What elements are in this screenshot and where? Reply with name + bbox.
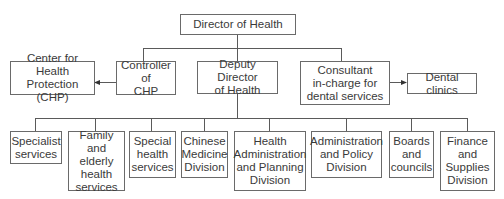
finance-line4: Division	[445, 174, 489, 187]
director-label: Director of Health	[193, 18, 282, 31]
special-health-services-box: Special health services	[129, 131, 176, 178]
boards-councils-box: Boards and councils	[389, 131, 434, 178]
boards-line3: councils	[391, 161, 433, 174]
family-line4: services	[71, 181, 122, 194]
specialist-line1: Specialist	[11, 135, 60, 148]
health-admin-planning-box: Health Administration and Planning Divis…	[234, 131, 306, 191]
controller-of-chp-box: Controller of CHP	[116, 61, 176, 95]
boards-line2: and	[391, 148, 433, 161]
hapd-line4: Division	[234, 174, 307, 187]
dental-label: Dental clinics	[410, 71, 474, 97]
admin-policy-division-box: Administration and Policy Division	[311, 131, 382, 178]
family-line2: elderly	[71, 155, 122, 168]
deputy-label-line1: Deputy Director	[200, 58, 275, 84]
hapd-line1: Health	[234, 135, 307, 148]
admin-line2: and Policy	[310, 148, 383, 161]
hapd-line3: and Planning	[234, 161, 307, 174]
finance-line1: Finance	[445, 135, 489, 148]
controller-label-line1: Controller of	[119, 59, 173, 85]
chp-center-label-line2: Protection (CHP)	[13, 78, 92, 104]
chp-center-label-line1: Center for Health	[13, 52, 92, 78]
boards-line1: Boards	[391, 135, 433, 148]
chinese-medicine-division-box: Chinese Medicine Division	[181, 131, 228, 178]
director-of-health-box: Director of Health	[180, 14, 296, 35]
admin-line3: Division	[310, 161, 383, 174]
special-line1: Special	[131, 135, 173, 148]
controller-label-line2: CHP	[119, 85, 173, 98]
admin-line1: Administration	[310, 135, 383, 148]
chinese-line1: Chinese	[181, 135, 227, 148]
finance-line2: and	[445, 148, 489, 161]
specialist-line2: services	[11, 148, 60, 161]
family-line3: health	[71, 168, 122, 181]
finance-line3: Supplies	[445, 161, 489, 174]
deputy-label-line2: of Health	[200, 84, 275, 97]
family-elderly-health-box: Family and elderly health services	[68, 131, 125, 191]
chinese-line3: Division	[181, 161, 227, 174]
consultant-label-line1: Consultant	[307, 64, 384, 77]
center-for-health-protection-box: Center for Health Protection (CHP)	[10, 61, 95, 95]
finance-supplies-division-box: Finance and Supplies Division	[440, 131, 495, 191]
deputy-director-box: Deputy Director of Health	[197, 61, 278, 94]
consultant-label-line2: in-charge for	[307, 77, 384, 90]
specialist-services-box: Specialist services	[10, 131, 62, 164]
consultant-dental-box: Consultant in-charge for dental services	[300, 61, 390, 105]
hapd-line2: Administration	[234, 148, 307, 161]
special-line3: services	[131, 161, 173, 174]
family-line1: Family and	[71, 129, 122, 155]
dental-clinics-box: Dental clinics	[407, 73, 477, 94]
special-line2: health	[131, 148, 173, 161]
consultant-label-line3: dental services	[307, 90, 384, 103]
chinese-line2: Medicine	[181, 148, 227, 161]
